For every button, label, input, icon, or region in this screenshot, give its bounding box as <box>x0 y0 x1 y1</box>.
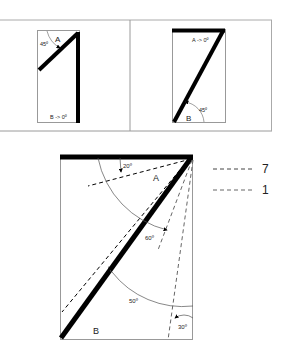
legend-label-7: 7 <box>262 162 269 176</box>
top-right-digit-seven: A -> 0º 45º B <box>172 30 226 124</box>
label-a: A <box>55 35 61 44</box>
angle-arc-50 <box>112 272 193 307</box>
label-b: B <box>93 326 99 336</box>
label-b: B <box>186 114 191 123</box>
angle-label-30: 30º <box>178 324 188 330</box>
label-b-zero: B -> 0º <box>50 114 67 120</box>
label-a: A <box>153 173 159 183</box>
legend-label-1: 1 <box>262 183 269 197</box>
angle-label-20: 20º <box>123 163 133 169</box>
angle-label-45: 45º <box>199 107 207 113</box>
angle-arc-30 <box>175 315 193 318</box>
top-panels-frame <box>0 20 272 131</box>
dashed-line-b-parallel <box>62 159 189 312</box>
angle-label-50: 50º <box>129 298 139 304</box>
diagram-canvas: A 45º B -> 0º A -> 0º 45º B 20º A 60º 50… <box>0 0 287 350</box>
angle-label-60: 60º <box>145 235 155 241</box>
top-left-digit-one: A 45º B -> 0º <box>38 31 80 124</box>
bottom-overlay-diagram: 20º A 60º 50º 30º B <box>60 156 193 341</box>
legend: 7 1 <box>213 162 269 197</box>
label-a-zero: A -> 0º <box>192 37 209 43</box>
angle-label-45: 45º <box>40 41 48 47</box>
stroke-b-thick <box>61 158 191 338</box>
angle-arc-60 <box>98 158 167 230</box>
angle-arrow-20 <box>120 158 121 172</box>
